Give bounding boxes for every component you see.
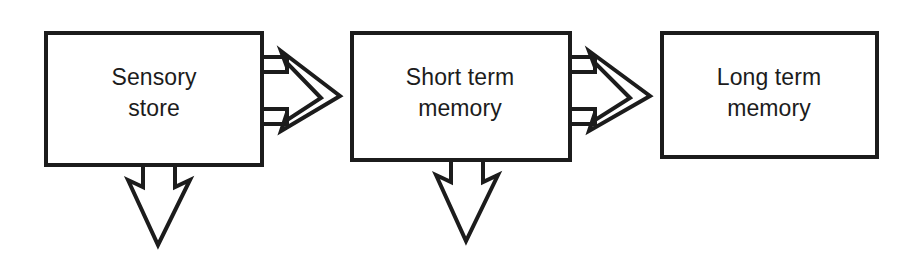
arrow-sensory-decay (128, 165, 190, 245)
arrow-stm-to-ltm (570, 51, 650, 131)
arrow-sensory-to-stm (262, 51, 340, 131)
short-term-memory-label-line2: memory (418, 95, 502, 121)
sensory-store-label-line1: Sensory (111, 64, 196, 90)
long-term-memory-label-line2: memory (727, 95, 811, 121)
diagram-canvas: Sensory store Short term memory Long ter… (0, 0, 921, 265)
short-term-memory-label-line1: Short term (406, 64, 514, 90)
arrow-stm-decay (436, 160, 498, 241)
long-term-memory-label-line1: Long term (717, 64, 821, 90)
sensory-store-label-line2: store (128, 95, 180, 121)
memory-model-diagram: Sensory store Short term memory Long ter… (0, 0, 921, 265)
